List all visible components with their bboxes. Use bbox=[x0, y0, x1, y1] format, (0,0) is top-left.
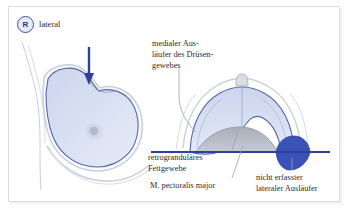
left-panel-lateral-profile bbox=[22, 42, 150, 190]
side-marker-letter: R bbox=[23, 21, 29, 29]
chest-wall-line-outer bbox=[22, 42, 41, 190]
label-nicht-erfasster-lateraler-auslaeufer: nicht erfasster lateraler Ausläufer bbox=[256, 172, 318, 194]
nipple-right bbox=[236, 74, 248, 86]
label-retroglandulaeres-fettgewebe: retrogranduläres Fettgewebe bbox=[148, 152, 202, 174]
label-pectoralis-major: M. pectoralis major bbox=[150, 180, 215, 191]
label-lateral: lateral bbox=[39, 19, 60, 31]
side-marker-badge: R bbox=[17, 16, 34, 33]
nipple-left bbox=[90, 127, 98, 135]
label-medialer-auslaeufer: medialer Aus- läufer des Drüsen- gewebes bbox=[152, 38, 213, 71]
figure-root: R lateral medialer Aus- läufer des Drüse… bbox=[0, 0, 350, 217]
